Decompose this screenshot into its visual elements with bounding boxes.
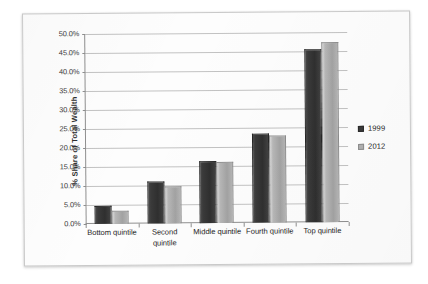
x-axis-tick-label-line: Middle quintile [193,227,241,236]
bar-1999-middle-quintile [200,161,217,223]
bar-2012-fourth-quintile [269,135,287,223]
scanned-chart-page: % Share of Total Wealth 0.0%5.0%10.0%15.… [22,10,412,266]
screenshot-page: % Share of Total Wealth 0.0%5.0%10.0%15.… [0,0,428,284]
bar-2012-bottom-quintile [112,210,129,223]
bar-group [85,34,138,224]
x-axis-tick-label-line: Fourth quintile [246,226,293,235]
y-axis-tick-label: 5.0% [26,201,80,209]
chart-legend: 19992012 [358,124,408,160]
x-axis-tick-label: Bottom quintile [86,228,138,249]
y-axis-tick-label: 25.0% [26,125,80,133]
bar-2012-second-quintile [164,186,181,223]
y-axis-tick-label: 45.0% [25,49,79,57]
x-axis-tick-label: Secondquintile [139,227,191,248]
x-axis-tick-label: Fourth quintile [244,226,296,247]
legend-item-2012: 2012 [358,141,408,150]
x-axis-tick-label-line: Second [152,227,178,236]
y-axis-tick-label: 50.0% [25,30,79,38]
legend-label: 2012 [368,142,385,151]
y-axis-tick-label: 30.0% [26,106,80,114]
bar-1999-fourth-quintile [252,133,270,222]
y-axis-tick-label: 20.0% [26,144,80,152]
legend-swatch-1999 [358,125,364,131]
bar-chart: % Share of Total Wealth 0.0%5.0%10.0%15.… [23,11,413,267]
x-axis-tick-mark [349,222,350,226]
x-axis-tick-label: Top quintile [297,226,349,247]
bar-1999-second-quintile [147,182,164,224]
legend-label: 1999 [368,124,385,133]
bar-2012-top-quintile [321,42,339,223]
x-axis-tick-labels: Bottom quintileSecondquintileMiddle quin… [86,226,349,249]
bar-groups [84,32,348,224]
legend-swatch-2012 [358,143,364,149]
x-axis-tick-label-line: Top quintile [303,226,341,235]
bar-2012-middle-quintile [217,162,234,223]
y-axis-tick-label: 35.0% [26,87,80,95]
bar-1999-bottom-quintile [95,206,112,224]
y-axis-tick-label: 15.0% [26,163,80,171]
bar-group [242,32,295,222]
legend-item-1999: 1999 [358,124,408,133]
bar-group [295,32,348,222]
bar-group [137,33,190,223]
y-axis-tick-labels: 0.0%5.0%10.0%15.0%20.0%25.0%30.0%35.0%40… [23,11,411,14]
x-axis-tick-label-line: quintile [153,238,177,247]
x-axis-tick-label-line: Bottom quintile [87,228,137,237]
x-axis-tick-label: Middle quintile [191,227,243,248]
y-axis-tick-label: 0.0% [27,220,81,228]
y-axis-tick-label: 40.0% [25,68,79,76]
bar-group [190,33,243,223]
y-axis-tick-label: 10.0% [26,182,80,190]
bar-1999-top-quintile [304,49,322,222]
